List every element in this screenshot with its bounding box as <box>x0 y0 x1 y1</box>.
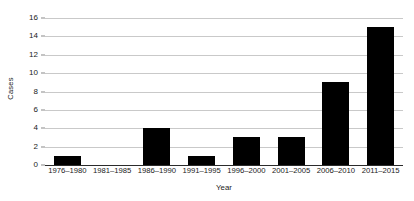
bar-slot <box>224 18 269 165</box>
y-axis-tick-label: 2 <box>34 143 45 151</box>
bar-slot <box>90 18 135 165</box>
y-axis-tick-label: 4 <box>34 124 45 132</box>
x-axis-tick-label: 1986–1990 <box>135 167 180 175</box>
x-axis-tick-label: 2006–2010 <box>314 167 359 175</box>
x-axis-tick-label: 1996–2000 <box>224 167 269 175</box>
y-axis-tick-label: 10 <box>29 69 45 77</box>
y-axis-tick-label: 0 <box>34 161 45 169</box>
y-axis-title-label: Cases <box>6 77 15 99</box>
y-axis-title: Cases <box>2 0 18 176</box>
bar-slot <box>314 18 359 165</box>
bar[interactable] <box>188 156 215 165</box>
x-axis-title: Year <box>45 183 403 192</box>
plot-area: 0246810121416 <box>45 18 403 165</box>
bar-slot <box>269 18 314 165</box>
x-axis-tick-label: 2011–2015 <box>358 167 403 175</box>
bar[interactable] <box>233 137 260 165</box>
y-axis-tick-label: 8 <box>34 88 45 96</box>
x-axis-tick-labels: 1976–19801981–19851986–19901991–19951996… <box>45 167 403 175</box>
y-axis-tick-label: 12 <box>29 51 45 59</box>
x-axis-tick-label: 1991–1995 <box>179 167 224 175</box>
bars-layer <box>45 18 403 165</box>
bar-slot <box>45 18 90 165</box>
x-axis-tick-label: 1976–1980 <box>45 167 90 175</box>
bar[interactable] <box>143 128 170 165</box>
bar-slot <box>358 18 403 165</box>
y-axis-tick-label: 14 <box>29 32 45 40</box>
bar-slot <box>135 18 180 165</box>
x-axis-tick-label: 1981–1985 <box>90 167 135 175</box>
bar[interactable] <box>322 82 349 165</box>
y-axis-tick-label: 6 <box>34 106 45 114</box>
x-axis-title-label: Year <box>216 183 232 192</box>
y-axis-tick-label: 16 <box>29 14 45 22</box>
bar[interactable] <box>367 27 394 165</box>
bar-chart-figure: Cases 0246810121416 1976–19801981–198519… <box>0 0 414 201</box>
bar-slot <box>179 18 224 165</box>
bar[interactable] <box>278 137 305 165</box>
bar[interactable] <box>54 156 81 165</box>
x-axis-baseline <box>45 165 403 166</box>
x-axis-tick-label: 2001–2005 <box>269 167 314 175</box>
